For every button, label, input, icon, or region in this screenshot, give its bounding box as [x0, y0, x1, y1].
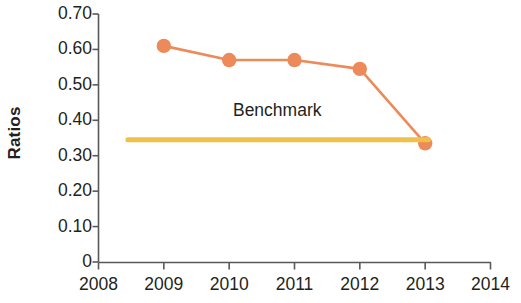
x-axis-tick-label: 2011 — [276, 276, 314, 294]
x-axis-tick-label: 2008 — [79, 276, 118, 294]
x-axis-tick-label: 2012 — [340, 276, 379, 294]
x-axis-tick-label: 2014 — [471, 276, 510, 294]
x-axis-tick-label: 2009 — [144, 276, 183, 294]
x-axis-tick-labels: 2008200920102011201220132014 — [0, 0, 521, 303]
ratios-line-chart: Ratios 0.700.600.500.400.300.200.100 200… — [0, 0, 521, 303]
x-axis-tick-label: 2010 — [210, 276, 249, 294]
benchmark-annotation-label: Benchmark — [233, 102, 322, 120]
x-axis-tick-label: 2013 — [406, 276, 445, 294]
